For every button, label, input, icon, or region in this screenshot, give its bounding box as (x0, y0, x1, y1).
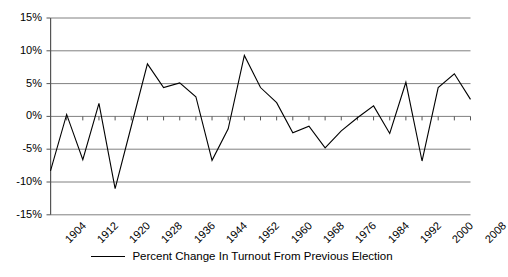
gridlines-group (47, 18, 471, 215)
x-axis-tick-label: 2008 (483, 220, 508, 245)
y-axis-tick-label: 5% (0, 78, 42, 89)
y-axis-tick-label: -5% (0, 143, 42, 154)
y-axis-tick-label: 0% (0, 110, 42, 121)
legend-line-swatch (91, 256, 125, 257)
y-axis-tick-label: -15% (0, 209, 42, 220)
y-axis-line (50, 18, 51, 215)
y-axis-tick-label: 15% (0, 12, 42, 23)
chart-legend: Percent Change In Turnout From Previous … (0, 250, 484, 262)
y-axis-tick-label: -10% (0, 176, 42, 187)
x-axis-ticks-group (51, 116, 471, 120)
y-axis-tick-label: 10% (0, 45, 42, 56)
legend-label: Percent Change In Turnout From Previous … (132, 250, 392, 262)
series-line-turnout-change (51, 55, 471, 188)
